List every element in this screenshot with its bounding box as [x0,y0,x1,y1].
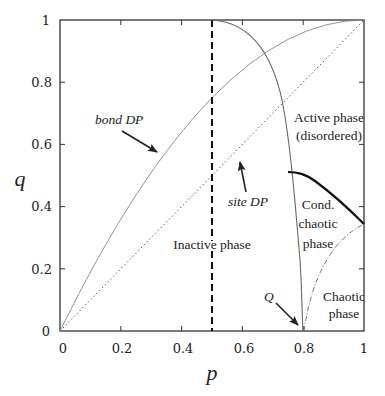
chaotic-phase-label-2: phase [329,306,360,321]
y-tick-label: 0 [42,324,50,339]
cond-chaotic-label-3: phase [303,236,334,251]
site-dp-arrow [240,162,246,192]
q-point-label: Q [264,289,274,304]
active-phase-sublabel: (disordered) [296,128,362,143]
x-tick-label: 0.6 [234,341,255,356]
y-tick-label: 0.8 [31,75,52,90]
site-dp-label: site DP [228,194,268,209]
inactive-phase-label: Inactive phase [173,237,251,252]
y-tick-label: 0.2 [31,262,52,277]
cond-chaotic-label-1: Cond. [302,197,335,212]
x-tick-label: 0 [59,341,67,356]
bond-dp-label: bond DP [95,112,143,127]
active-phase-label: Active phase [294,110,364,125]
y-tick-label: 0.6 [31,137,52,152]
x-tick-label: 0.4 [173,341,194,356]
y-axis-label: q [15,166,26,191]
x-tick-label: 1 [360,341,368,356]
cond-chaotic-label-2: chaotic [299,216,338,231]
q-point-arrow [276,303,298,325]
active-inactive-boundary [212,20,303,331]
x-tick-label: 0.2 [112,341,133,356]
x-axis-label: p [205,360,218,385]
y-tick-label: 0.4 [31,199,52,214]
bond-dp-arrow [122,131,157,152]
y-tick-label: 1 [42,13,50,28]
x-tick-label: 0.8 [294,341,315,356]
phase-diagram-chart: 0 0.2 0.4 0.6 0.8 1 0 0.2 0.4 0.6 0.8 1 … [0,0,385,396]
chaotic-phase-label-1: Chaotic [323,289,365,304]
